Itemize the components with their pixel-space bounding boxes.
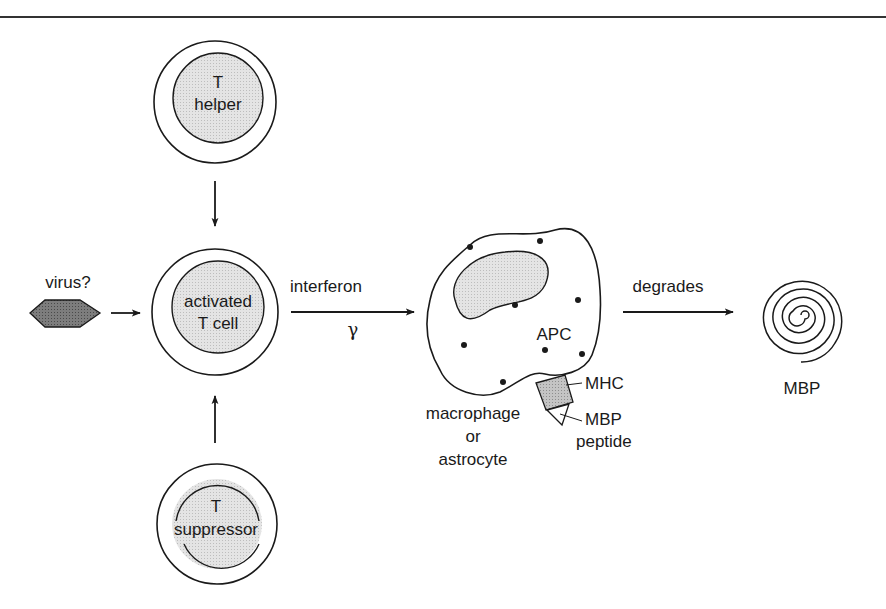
apc-label: APC — [537, 325, 572, 344]
virus: virus? — [30, 273, 100, 327]
virus-label: virus? — [45, 273, 90, 292]
virus-hexagon-icon — [30, 300, 100, 327]
diagram-canvas: T helper activated T cell T suppressor v… — [0, 0, 886, 609]
mbp-peptide-label-line2: peptide — [576, 432, 632, 451]
apc-cell: APC MHC MBP peptide macrophage or astroc… — [426, 229, 632, 469]
mhc-leader-line — [566, 383, 582, 385]
activated-label-line2: T cell — [198, 314, 238, 333]
mbp-label: MBP — [784, 379, 821, 398]
activated-label-line1: activated — [184, 292, 252, 311]
degrades-label: degrades — [633, 277, 704, 296]
t-suppressor-label-line1: T — [211, 497, 221, 516]
t-suppressor-cell: T suppressor — [157, 464, 277, 584]
activated-t-cell: activated T cell — [152, 249, 278, 375]
t-suppressor-label-line2: suppressor — [174, 520, 258, 539]
apc-caption-line1: macrophage — [426, 404, 521, 423]
mbp-peptide-label-line1: MBP — [585, 410, 622, 429]
t-helper-label-line2: helper — [194, 95, 242, 114]
apc-caption-line3: astrocyte — [439, 450, 508, 469]
interferon-gamma-symbol: γ — [348, 319, 359, 340]
interferon-label: interferon — [290, 277, 362, 296]
apc-caption-line2: or — [465, 427, 480, 446]
mhc-label: MHC — [585, 374, 624, 393]
t-helper-label-line1: T — [213, 73, 223, 92]
t-helper-cell: T helper — [154, 41, 276, 163]
mbp-spiral-icon — [763, 281, 841, 362]
